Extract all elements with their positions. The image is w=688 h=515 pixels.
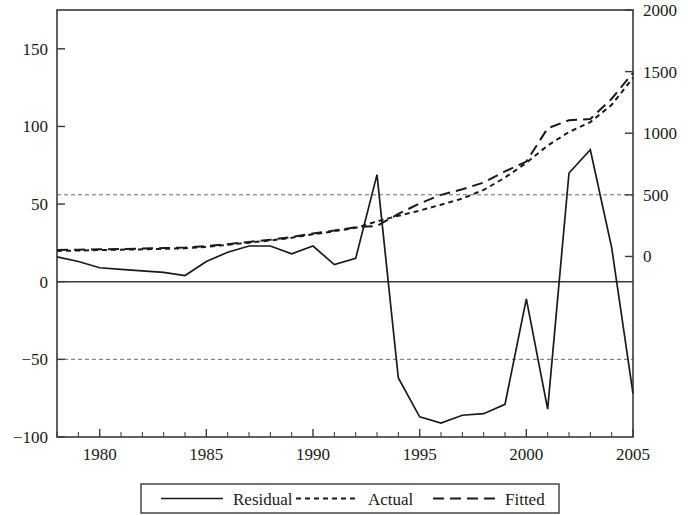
right-axis-tick-label: 1000 (643, 124, 677, 143)
left-axis-tick-label: −50 (21, 350, 48, 369)
legend-label-residual: Residual (233, 490, 293, 509)
right-axis-ticks (625, 10, 633, 256)
x-axis-tick-label: 1985 (189, 445, 223, 464)
plot-border (57, 10, 633, 437)
x-axis-tick-label: 1990 (296, 445, 330, 464)
plot-frame (57, 10, 633, 437)
x-axis-tick-label: 1995 (403, 445, 437, 464)
left-axis-tick-label: 50 (31, 195, 48, 214)
left-axis-ticks (57, 49, 65, 437)
x-axis-tick-labels: 198019851990199520002005 (83, 445, 650, 464)
series-line-residual (57, 150, 633, 423)
right-axis-tick-label: 2000 (643, 1, 677, 20)
x-axis-tick-label: 2000 (509, 445, 543, 464)
x-axis-tick-label: 2005 (616, 445, 650, 464)
right-axis-tick-labels: 0500100015002000 (643, 1, 677, 266)
legend-label-fitted: Fitted (505, 490, 545, 509)
left-axis-tick-label: 150 (23, 40, 49, 59)
x-axis-tick-label: 1980 (83, 445, 117, 464)
data-series (57, 73, 633, 423)
right-axis-tick-label: 1500 (643, 63, 677, 82)
left-axis-tick-labels: −100−50050100150 (13, 40, 48, 447)
gridlines (57, 195, 633, 360)
series-line-actual (57, 78, 633, 251)
chart-container: 198019851990199520002005 −100−5005010015… (0, 0, 688, 515)
chart-legend: ResidualActualFitted (141, 484, 559, 513)
x-axis-ticks (57, 429, 633, 437)
right-axis-tick-label: 0 (643, 247, 652, 266)
series-line-fitted (57, 73, 633, 250)
right-axis-tick-label: 500 (643, 186, 669, 205)
left-axis-tick-label: 0 (40, 273, 49, 292)
left-axis-tick-label: −100 (13, 428, 48, 447)
residual-actual-fitted-line-chart: 198019851990199520002005 −100−5005010015… (0, 0, 688, 515)
legend-label-actual: Actual (368, 490, 414, 509)
left-axis-tick-label: 100 (23, 117, 49, 136)
